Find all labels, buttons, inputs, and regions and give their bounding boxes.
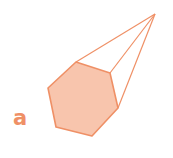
lateral-edge (110, 14, 155, 73)
lateral-edge (118, 14, 155, 108)
lateral-edge (76, 14, 155, 62)
figure-label: a (13, 108, 27, 129)
hexagon-base-face (48, 62, 118, 136)
hexagonal-pyramid-figure (0, 0, 173, 158)
